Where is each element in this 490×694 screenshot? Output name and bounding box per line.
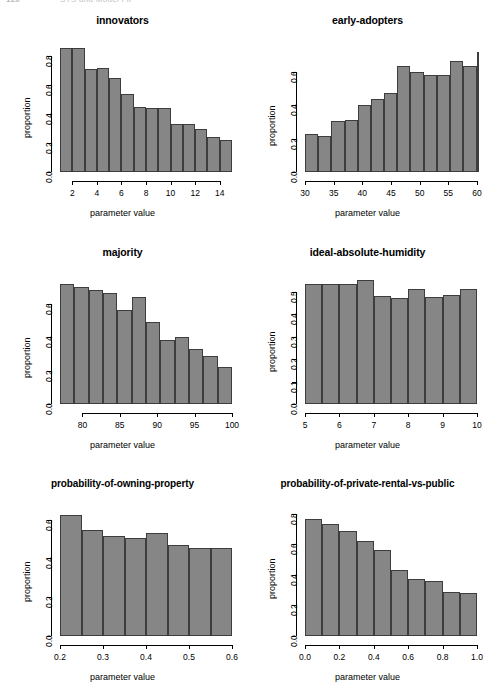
- y-axis-tick-label: 0.2: [44, 142, 54, 154]
- y-axis-label: proportion: [22, 561, 32, 602]
- x-axis-tick-label: 0.3: [97, 652, 109, 662]
- x-axis-tick: [391, 181, 392, 185]
- chart-panel: probability-of-private-rental-vs-public0…: [245, 464, 490, 694]
- y-axis-line: [296, 72, 297, 172]
- x-axis-tick: [334, 181, 335, 185]
- x-axis-tick-label: 35: [329, 188, 338, 198]
- histogram-bar: [211, 548, 233, 636]
- x-axis-tick: [408, 413, 409, 417]
- chart-panel: probability-of-owning-property0.00.20.40…: [0, 464, 245, 694]
- x-axis-tick: [103, 645, 104, 649]
- x-axis-tick: [72, 181, 73, 185]
- histogram-bar: [158, 108, 170, 172]
- histogram-bar: [74, 287, 88, 405]
- histogram-bar: [72, 48, 84, 172]
- y-axis-tick-label: 0.0: [44, 403, 54, 415]
- y-axis-tick-label: 0.3: [289, 336, 299, 348]
- histogram-bar: [371, 99, 384, 172]
- y-axis-tick-label: 0.6: [44, 85, 54, 97]
- x-axis-tick-label: 14: [215, 188, 224, 198]
- histogram-bar: [374, 550, 391, 636]
- x-axis-tick-label: 4: [94, 188, 99, 198]
- chart-panel: early-adopters0.00.20.40.630354045505560…: [245, 0, 490, 232]
- histogram-bar: [322, 524, 339, 636]
- histogram-bar: [220, 140, 232, 172]
- x-axis-tick: [448, 181, 449, 185]
- x-axis-tick: [232, 645, 233, 649]
- histogram-bar: [357, 541, 374, 636]
- histogram-bar: [103, 536, 125, 636]
- x-axis-tick: [232, 413, 233, 417]
- histogram-bar: [374, 296, 391, 404]
- histogram-bar: [132, 297, 146, 405]
- plot-area: 0.00.20.40.60.82468101214parameter value…: [0, 0, 245, 232]
- x-axis-label: parameter value: [245, 672, 490, 682]
- y-axis-tick-label: 0.4: [289, 574, 299, 586]
- x-axis-tick: [195, 181, 196, 185]
- y-axis-tick-label: 0.0: [289, 171, 299, 183]
- histogram-bar: [460, 593, 477, 636]
- x-axis-label: parameter value: [0, 208, 245, 218]
- histogram-bar: [384, 93, 397, 172]
- x-axis-tick-label: 0.6: [402, 652, 414, 662]
- x-axis-tick-label: 10: [166, 188, 175, 198]
- histogram-bar: [460, 289, 477, 404]
- chart-panel: majority0.00.20.40.680859095100parameter…: [0, 232, 245, 464]
- x-axis-tick: [443, 645, 444, 649]
- histogram-bar: [391, 570, 408, 636]
- x-axis-line: [305, 413, 477, 414]
- x-axis-tick-label: 7: [371, 420, 376, 430]
- y-axis-tick-label: 0.6: [289, 71, 299, 83]
- histogram-bar: [60, 48, 72, 172]
- x-axis-tick: [477, 181, 478, 185]
- histogram-bar: [477, 52, 479, 172]
- histogram-bar: [168, 545, 190, 636]
- y-axis-tick-label: 0.4: [44, 558, 54, 570]
- y-axis-label: proportion: [22, 98, 32, 139]
- y-axis-tick-label: 0.6: [289, 543, 299, 555]
- histogram-bar: [146, 108, 158, 172]
- x-axis-tick-label: 0.0: [299, 652, 311, 662]
- chart-grid: innovators0.00.20.40.60.82468101214param…: [0, 0, 490, 694]
- x-axis-tick-label: 1.0: [471, 652, 483, 662]
- x-axis-tick: [171, 181, 172, 185]
- plot-area: 0.00.20.40.60.20.30.40.50.6parameter val…: [0, 464, 245, 694]
- y-axis-tick-label: 0.0: [44, 635, 54, 647]
- y-axis-tick-label: 0.4: [44, 337, 54, 349]
- x-axis-tick-label: 2: [70, 188, 75, 198]
- x-axis-tick: [339, 645, 340, 649]
- x-axis-tick: [362, 181, 363, 185]
- x-axis-tick-label: 40: [358, 188, 367, 198]
- y-axis-label: proportion: [267, 558, 277, 599]
- histogram-bar: [89, 290, 103, 404]
- x-axis-tick-label: 100: [225, 420, 239, 430]
- y-axis-tick-label: 0.4: [44, 113, 54, 125]
- x-axis-tick-label: 6: [337, 420, 342, 430]
- histogram-bar: [331, 121, 344, 172]
- x-axis-tick-label: 0.5: [183, 652, 195, 662]
- x-axis-tick-label: 12: [190, 188, 199, 198]
- x-axis-tick-label: 0.8: [437, 652, 449, 662]
- y-axis-tick-label: 0.0: [289, 403, 299, 415]
- histogram-bar: [410, 72, 423, 172]
- histogram-bar: [82, 530, 104, 636]
- histogram-bar: [189, 548, 211, 636]
- x-axis-tick-label: 0.4: [368, 652, 380, 662]
- x-axis-label: parameter value: [0, 440, 245, 450]
- y-axis-tick-label: 0.1: [289, 381, 299, 393]
- x-axis-tick-label: 6: [119, 188, 124, 198]
- histogram-bar: [160, 340, 174, 404]
- histogram-bar: [60, 284, 74, 404]
- y-axis-tick-label: 0.6: [44, 303, 54, 315]
- x-axis-tick-label: 5: [303, 420, 308, 430]
- x-axis-tick: [477, 413, 478, 417]
- histogram-bar: [203, 356, 217, 404]
- x-axis-label: parameter value: [245, 440, 490, 450]
- y-axis-tick-label: 0.2: [44, 370, 54, 382]
- histogram-bar: [391, 298, 408, 404]
- histogram-bar: [134, 107, 146, 172]
- y-axis-tick-label: 0.2: [289, 138, 299, 150]
- histogram-bar: [339, 284, 356, 404]
- x-axis-label: parameter value: [245, 208, 490, 218]
- y-axis-tick-label: 0.2: [44, 596, 54, 608]
